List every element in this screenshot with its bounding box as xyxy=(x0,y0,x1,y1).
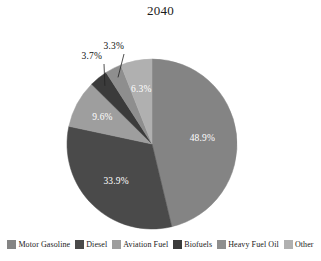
legend-item-label: Diesel xyxy=(86,240,107,249)
slice-value-label: 6.3% xyxy=(131,84,152,94)
legend-item-label: Biofuels xyxy=(184,240,212,249)
slice-value-label: 33.9% xyxy=(103,176,129,186)
legend-swatch-icon xyxy=(75,240,84,249)
legend-item-label: Aviation Fuel xyxy=(123,240,168,249)
slice-value-label: 48.9% xyxy=(190,133,216,143)
legend-swatch-icon xyxy=(7,240,16,249)
legend-item[interactable]: Aviation Fuel xyxy=(112,240,168,249)
slice-value-label: 9.6% xyxy=(92,112,113,122)
legend-item[interactable]: Motor Gasoline xyxy=(7,240,70,249)
legend-item-label: Heavy Fuel Oil xyxy=(228,240,279,249)
chart-legend: Motor GasolineDieselAviation FuelBiofuel… xyxy=(0,240,321,249)
legend-swatch-icon xyxy=(112,240,121,249)
pie-svg xyxy=(0,0,321,261)
legend-swatch-icon xyxy=(173,240,182,249)
slice-callout-label: 3.3% xyxy=(104,41,125,51)
legend-item-label: Motor Gasoline xyxy=(18,240,70,249)
legend-item[interactable]: Biofuels xyxy=(173,240,212,249)
legend-item[interactable]: Other xyxy=(284,240,314,249)
legend-item-label: Other xyxy=(295,240,314,249)
legend-swatch-icon xyxy=(217,240,226,249)
slice-callout-label: 3.7% xyxy=(82,51,103,61)
legend-item[interactable]: Heavy Fuel Oil xyxy=(217,240,279,249)
legend-item[interactable]: Diesel xyxy=(75,240,107,249)
legend-swatch-icon xyxy=(284,240,293,249)
pie-chart-figure: 2040 48.9%33.9%9.6%3.7%3.3%6.3% Motor Ga… xyxy=(0,0,321,261)
pie-slice-group xyxy=(67,59,237,229)
